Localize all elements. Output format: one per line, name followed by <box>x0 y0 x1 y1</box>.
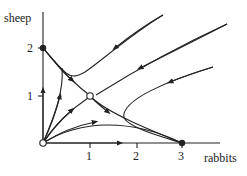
y-axis-label: sheep <box>4 12 31 24</box>
unstable-manifold-right <box>92 98 182 143</box>
x-tick-1: 1 <box>86 150 92 162</box>
y-tick-1: 1 <box>27 90 33 102</box>
fixed-point-sheep-only <box>40 45 46 51</box>
fixed-point-saddle <box>87 93 93 99</box>
y-tick-2: 2 <box>27 42 33 54</box>
x-axis-label: rabbits <box>204 152 237 164</box>
fixed-point-rabbits-only <box>179 140 185 146</box>
x-tick-2: 2 <box>133 150 139 162</box>
stable-manifold-lower <box>43 98 88 143</box>
fixed-point-origin <box>40 140 46 146</box>
phase-portrait <box>0 0 247 176</box>
stable-manifold-upper <box>43 48 88 94</box>
x-tick-3: 3 <box>178 150 184 162</box>
